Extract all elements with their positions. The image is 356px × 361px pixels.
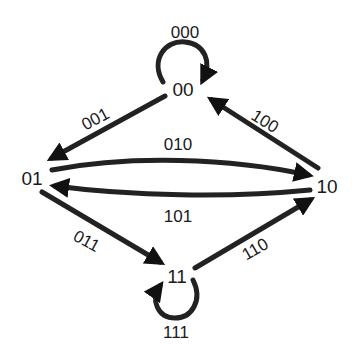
edge-label-010: 010	[164, 135, 192, 154]
state-diagram: 00 01 10 11 000 001 010 100 101 011 110 …	[0, 0, 356, 361]
node-10: 10	[316, 176, 337, 197]
node-00: 00	[172, 79, 193, 100]
edge-00-00	[158, 42, 207, 82]
node-11: 11	[167, 266, 187, 287]
edge-label-111: 111	[163, 323, 189, 342]
edge-01-11	[42, 192, 160, 262]
node-01: 01	[21, 168, 42, 189]
edge-10-01	[55, 186, 310, 195]
edge-label-000: 000	[171, 23, 199, 42]
edge-label-100: 100	[248, 106, 282, 137]
edge-label-101: 101	[164, 207, 192, 226]
edge-label-011: 011	[70, 226, 103, 256]
edge-00-01	[52, 96, 165, 158]
edge-01-10	[52, 160, 308, 175]
